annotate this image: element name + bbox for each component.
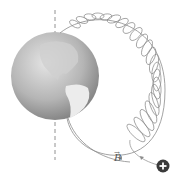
field-label: → B — [114, 153, 121, 163]
magnetosphere-diagram — [0, 0, 184, 179]
positive-charge — [157, 160, 170, 173]
earth-globe — [11, 32, 99, 120]
vector-arrow-icon: → — [114, 150, 120, 157]
